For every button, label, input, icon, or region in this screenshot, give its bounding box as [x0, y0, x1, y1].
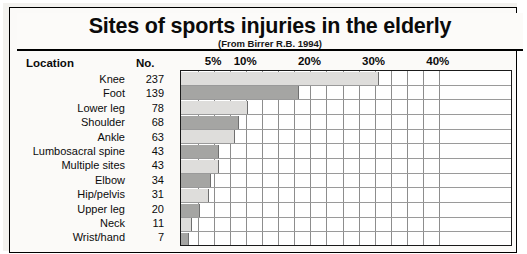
horizontal-gridline [181, 217, 511, 218]
bar-end-edge [247, 101, 248, 114]
table-row: Ankle63 [10, 130, 180, 144]
bar-knee [181, 72, 378, 85]
bar-elbow [181, 174, 210, 187]
horizontal-gridline [181, 202, 511, 203]
title-block: Sites of sports injuries in the elderly … [17, 13, 523, 51]
row-value: 34 [138, 173, 164, 187]
bar-end-edge [208, 189, 209, 202]
row-label-lumbosacral-spine: Lumbosacral spine [33, 144, 125, 158]
bar-end-edge [218, 145, 219, 158]
row-label-multiple-sites: Multiple sites [61, 158, 125, 172]
bar-hip-pelvis [181, 189, 208, 202]
table-row: Elbow34 [10, 173, 180, 187]
row-value: 31 [138, 187, 164, 201]
horizontal-gridline [181, 158, 511, 159]
table-row: Hip/pelvis31 [10, 187, 180, 201]
row-value: 20 [138, 202, 164, 216]
row-value: 78 [138, 101, 164, 115]
row-label-wrist-hand: Wrist/hand [73, 230, 125, 244]
row-label-hip-pelvis: Hip/pelvis [77, 187, 125, 201]
x-axis-tick-5: 5% [205, 55, 222, 67]
bar-shoulder [181, 116, 238, 129]
bar-lower-leg [181, 101, 247, 114]
bar-end-edge [378, 72, 379, 85]
horizontal-gridline [181, 143, 511, 144]
bar-neck [181, 218, 191, 231]
table-row: Foot139 [10, 86, 180, 100]
bar-end-edge [298, 86, 299, 99]
horizontal-gridline [181, 231, 511, 232]
row-value: 139 [138, 86, 164, 100]
bar-foot [181, 86, 298, 99]
table-row: Multiple sites43 [10, 158, 180, 172]
chart-card: Sites of sports injuries in the elderly … [9, 7, 517, 253]
x-axis-tick-30: 30% [362, 55, 385, 67]
bar-end-edge [210, 174, 211, 187]
x-axis-tick-20: 20% [298, 55, 321, 67]
table-row: Lower leg78 [10, 101, 180, 115]
row-value: 7 [138, 230, 164, 244]
row-value: 68 [138, 115, 164, 129]
table-row: Shoulder68 [10, 115, 180, 129]
row-label-knee: Knee [99, 72, 125, 86]
page-title: Sites of sports injuries in the elderly [17, 14, 523, 38]
bar-end-edge [188, 233, 189, 246]
row-value: 43 [138, 144, 164, 158]
x-axis-tick-40: 40% [426, 55, 449, 67]
row-label-shoulder: Shoulder [81, 115, 125, 129]
row-value: 237 [138, 72, 164, 86]
bar-end-edge [234, 130, 235, 143]
row-label-foot: Foot [103, 86, 125, 100]
bar-ankle [181, 130, 234, 143]
bar-end-edge [218, 160, 219, 173]
x-axis-tick-10: 10% [234, 55, 257, 67]
bar-wrist-hand [181, 233, 188, 246]
row-value: 11 [138, 216, 164, 230]
table-row: Wrist/hand7 [10, 230, 180, 244]
row-value: 43 [138, 158, 164, 172]
bar-multiple-sites [181, 160, 218, 173]
chart-source-citation: (From Birrer R.B. 1994) [17, 38, 523, 49]
row-label-ankle: Ankle [97, 130, 125, 144]
bar-end-edge [238, 116, 239, 129]
row-label-lower-leg: Lower leg [77, 101, 125, 115]
category-list: Knee237Foot139Lower leg78Shoulder68Ankle… [10, 72, 180, 245]
row-value: 63 [138, 130, 164, 144]
table-row: Neck11 [10, 216, 180, 230]
row-label-upper-leg: Upper leg [77, 202, 125, 216]
x-axis-tick-labels: 5%10%20%30%40% [10, 55, 527, 71]
bar-end-edge [191, 218, 192, 231]
horizontal-gridline [181, 187, 511, 188]
row-label-elbow: Elbow [95, 173, 125, 187]
plot-area [180, 70, 512, 246]
horizontal-gridline [181, 173, 511, 174]
table-row: Lumbosacral spine43 [10, 144, 180, 158]
row-label-neck: Neck [100, 216, 125, 230]
bar-upper-leg [181, 204, 199, 217]
bar-end-edge [199, 204, 200, 217]
bar-lumbosacral-spine [181, 145, 218, 158]
table-row: Upper leg20 [10, 202, 180, 216]
table-row: Knee237 [10, 72, 180, 86]
